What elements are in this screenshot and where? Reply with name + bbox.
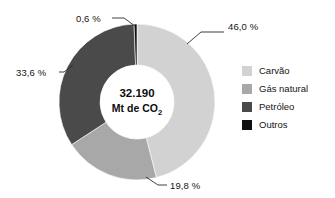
center-unit-main: Mt de CO [112,102,158,114]
legend-swatch-icon [242,120,252,130]
pct-label-g-s-natural: 19,8 % [170,180,201,191]
donut-slice-petr-leo[interactable] [59,24,136,145]
legend-item-outros[interactable]: Outros [242,116,335,134]
legend-swatch-icon [242,84,252,94]
legend-item-label: Outros [259,120,288,130]
donut-chart-figure: 46,0 %19,8 %33,6 %0,6 % 32.190 Mt de CO2… [0,0,335,198]
center-unit-label: Mt de CO2 [112,102,162,117]
legend-item-petr-leo[interactable]: Petróleo [242,98,335,116]
legend-swatch-icon [242,66,252,76]
pct-label-outros: 0,6 % [76,13,101,24]
pct-label-carv-o: 46,0 % [228,21,259,32]
legend-item-g-s-natural[interactable]: Gás natural [242,80,335,98]
pct-label-petr-leo: 33,6 % [16,67,47,78]
legend-item-label: Petróleo [259,102,294,112]
legend-item-label: Gás natural [259,84,308,94]
center-total-value: 32.190 [119,87,154,99]
center-unit-subscript: 2 [158,108,162,117]
legend-swatch-icon [242,102,252,112]
legend-item-label: Carvão [259,66,290,76]
leader-line-carv-o [187,32,224,44]
chart-legend: CarvãoGás naturalPetróleoOutros [242,62,335,134]
legend-item-carv-o[interactable]: Carvão [242,62,335,80]
